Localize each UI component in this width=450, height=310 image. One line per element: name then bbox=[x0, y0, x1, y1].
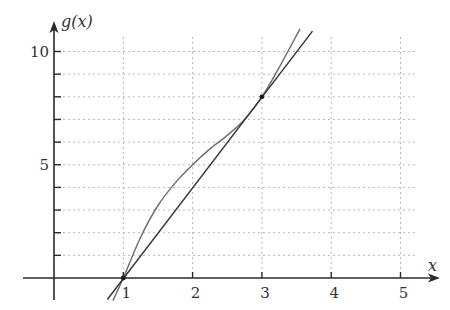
secant-line bbox=[107, 31, 312, 299]
x-tick-label: 3 bbox=[260, 284, 270, 302]
axes bbox=[23, 21, 440, 300]
x-tick-label: 2 bbox=[191, 284, 201, 302]
x-tick-label: 1 bbox=[122, 284, 132, 302]
data-point bbox=[121, 276, 126, 281]
x-axis-label: x bbox=[428, 256, 437, 275]
data-point bbox=[260, 94, 265, 99]
y-tick-label: 10 bbox=[30, 43, 49, 61]
x-tick-label: 5 bbox=[399, 284, 409, 302]
x-tick-label: 4 bbox=[329, 284, 339, 302]
chart: 12345510 g(x) x bbox=[0, 0, 450, 310]
y-axis-label: g(x) bbox=[61, 12, 93, 31]
y-tick-label: 5 bbox=[39, 156, 49, 174]
ticks: 12345510 bbox=[30, 43, 408, 303]
g-curve bbox=[113, 29, 300, 301]
gridlines bbox=[58, 37, 416, 275]
plot-area: 12345510 g(x) x bbox=[0, 0, 450, 310]
